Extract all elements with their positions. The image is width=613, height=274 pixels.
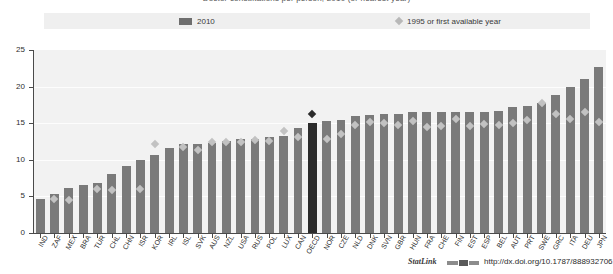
bar-lux[interactable] <box>279 136 288 233</box>
diamond-oecd[interactable] <box>308 110 316 118</box>
bar-group[interactable] <box>480 50 489 233</box>
bar-ind[interactable] <box>36 199 45 233</box>
x-axis-label-est: EST <box>466 234 479 249</box>
diamond-lux[interactable] <box>279 127 287 135</box>
bar-group[interactable] <box>551 50 560 233</box>
x-axis-label-svk: SVK <box>194 234 207 250</box>
bar-ita[interactable] <box>566 87 575 233</box>
x-axis-label-kor: KOR <box>150 234 164 251</box>
bar-group[interactable] <box>236 50 245 233</box>
statlink-url[interactable]: http://dx.doi.org/10.1787/888932706128 <box>484 257 613 266</box>
x-axis-label-isl: ISL <box>181 234 192 247</box>
bar-group[interactable] <box>408 50 417 233</box>
bar-group[interactable] <box>150 50 159 233</box>
bar-kor[interactable] <box>150 155 159 233</box>
plot-area: 0510152025 <box>0 44 613 234</box>
bar-group[interactable] <box>265 50 274 233</box>
bar-gbr[interactable] <box>394 114 403 233</box>
x-axis-label-swe: SWE <box>537 234 551 251</box>
bar-group[interactable] <box>122 50 131 233</box>
bar-group[interactable] <box>465 50 474 233</box>
bar-group[interactable] <box>380 50 389 233</box>
bar-fin[interactable] <box>451 112 460 234</box>
bar-che[interactable] <box>437 112 446 233</box>
bar-pol[interactable] <box>265 137 274 233</box>
bar-prt[interactable] <box>523 106 532 233</box>
bar-group[interactable] <box>79 50 88 233</box>
bar-group[interactable] <box>337 50 346 233</box>
x-axis-label-rus: RUS <box>251 234 264 250</box>
bar-swe[interactable] <box>537 103 546 233</box>
bar-group[interactable] <box>294 50 303 233</box>
bar-deu[interactable] <box>580 79 589 233</box>
bar-group[interactable] <box>523 50 532 233</box>
bar-chn[interactable] <box>122 166 131 233</box>
bar-group[interactable] <box>251 50 260 233</box>
bar-group[interactable] <box>222 50 231 233</box>
bar-group[interactable] <box>508 50 517 233</box>
bar-group[interactable] <box>36 50 45 233</box>
bar-hun[interactable] <box>408 112 417 233</box>
bar-group[interactable] <box>50 50 59 233</box>
bar-usa[interactable] <box>236 139 245 233</box>
bar-esp[interactable] <box>480 112 489 234</box>
y-axis-tick-label: 25 <box>0 45 25 54</box>
bar-irl[interactable] <box>165 148 174 233</box>
y-axis-tick-label: 10 <box>0 155 25 164</box>
bar-chl[interactable] <box>107 174 116 233</box>
bar-group[interactable] <box>64 50 73 233</box>
bar-group[interactable] <box>437 50 446 233</box>
bar-svk[interactable] <box>193 144 202 233</box>
x-axis-label-deu: DEU <box>580 234 593 250</box>
x-axis-label-usa: USA <box>237 234 250 250</box>
legend-item-2010: 2010 <box>179 16 215 26</box>
x-axis-label-dnk: DNK <box>365 234 378 250</box>
bar-can[interactable] <box>294 128 303 233</box>
bar-group[interactable] <box>494 50 503 233</box>
bar-bra[interactable] <box>79 185 88 233</box>
bar-group[interactable] <box>193 50 202 233</box>
bar-group[interactable] <box>308 50 317 233</box>
bar-group[interactable] <box>165 50 174 233</box>
bar-group[interactable] <box>451 50 460 233</box>
bar-series <box>33 50 606 233</box>
x-axis-label-chl: CHL <box>108 234 121 250</box>
diamond-kor[interactable] <box>151 140 159 148</box>
bar-oecd[interactable] <box>308 123 317 233</box>
bar-svn[interactable] <box>380 114 389 233</box>
x-axis-label-hun: HUN <box>408 234 422 251</box>
bar-group[interactable] <box>93 50 102 233</box>
x-axis-label-bel: BEL <box>495 234 508 249</box>
x-axis-label-fin: FIN <box>453 234 465 247</box>
x-axis-label-cze: CZE <box>337 234 350 250</box>
bar-group[interactable] <box>566 50 575 233</box>
y-axis-tick-label: 15 <box>0 118 25 127</box>
bar-group[interactable] <box>422 50 431 233</box>
x-axis-label-ind: IND <box>37 234 49 248</box>
x-axis-label-prt: PRT <box>523 234 536 250</box>
bar-rus[interactable] <box>251 139 260 233</box>
x-axis-label-lux: LUX <box>280 234 293 249</box>
bar-group[interactable] <box>351 50 360 233</box>
bar-group[interactable] <box>322 50 331 233</box>
bar-isr[interactable] <box>136 160 145 233</box>
bar-group[interactable] <box>107 50 116 233</box>
bar-group[interactable] <box>394 50 403 233</box>
bar-group[interactable] <box>179 50 188 233</box>
bar-group[interactable] <box>537 50 546 233</box>
bar-group[interactable] <box>365 50 374 233</box>
bar-group[interactable] <box>279 50 288 233</box>
x-axis-label-mex: MEX <box>64 234 78 251</box>
bar-group[interactable] <box>136 50 145 233</box>
x-axis-label-nld: NLD <box>351 234 364 250</box>
bar-group[interactable] <box>580 50 589 233</box>
legend-label-1995: 1995 or first available year <box>407 17 501 26</box>
bar-dnk[interactable] <box>365 115 374 233</box>
bar-group[interactable] <box>594 50 603 233</box>
bar-isl[interactable] <box>179 144 188 233</box>
bar-nld[interactable] <box>351 116 360 233</box>
bar-aus[interactable] <box>208 143 217 233</box>
bar-jpn[interactable] <box>594 67 603 233</box>
bar-group[interactable] <box>208 50 217 233</box>
bar-nzl[interactable] <box>222 141 231 233</box>
